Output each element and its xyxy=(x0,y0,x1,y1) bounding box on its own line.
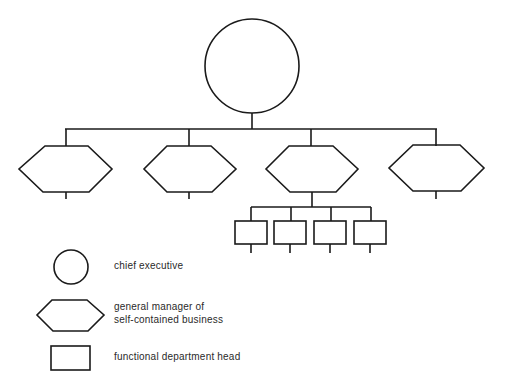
legend-circle-icon xyxy=(54,250,88,284)
functional-head-node-1 xyxy=(235,221,267,244)
org-chart-diagram xyxy=(0,0,506,391)
general-manager-node-3 xyxy=(266,146,358,192)
functional-head-node-4 xyxy=(354,221,386,244)
functional-head-node-2 xyxy=(274,221,306,244)
legend-hexagon-icon xyxy=(37,300,104,331)
legend-label-functional-head: functional department head xyxy=(114,351,240,364)
general-manager-node-1 xyxy=(19,146,112,192)
chief-executive-node xyxy=(205,19,299,113)
functional-head-node-3 xyxy=(314,221,346,244)
general-manager-node-4 xyxy=(389,145,484,191)
general-manager-node-2 xyxy=(144,146,236,192)
legend-label-chief-executive: chief executive xyxy=(114,260,183,273)
legend-label-gm-line1: general manager of xyxy=(114,301,204,314)
legend-rectangle-icon xyxy=(51,346,90,370)
legend-label-gm-line2: self-contained business xyxy=(114,314,223,327)
